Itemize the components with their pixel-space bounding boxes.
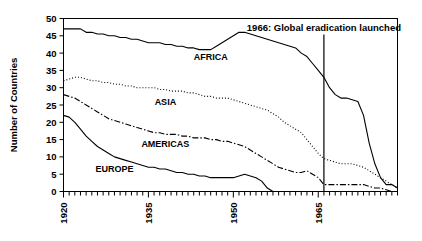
- x-axis-minor-ticks: [64, 192, 398, 198]
- y-tick-label: 5: [51, 169, 57, 180]
- series-line-europe: [64, 115, 398, 191]
- y-tick-label: 20: [46, 117, 57, 128]
- x-tick-label: 1935: [143, 202, 154, 224]
- series-line-americas: [64, 95, 398, 192]
- eradication-marker-label: 1966: Global eradication launched: [247, 22, 401, 33]
- y-tick-label: 45: [46, 30, 57, 41]
- series-inline-labels: AFRICAASIAAMERICASEUROPE: [95, 52, 228, 174]
- y-tick-label: 0: [51, 186, 56, 197]
- y-tick-label: 30: [46, 82, 57, 93]
- x-axis-tick-labels: 1920193519501965: [58, 202, 324, 224]
- y-axis-ticks: [60, 19, 64, 192]
- x-tick-label: 1965: [313, 202, 324, 224]
- smallpox-endemic-countries-chart: 05101520253035404550 1920193519501965 AF…: [0, 0, 422, 241]
- y-tick-label: 25: [46, 100, 57, 111]
- y-tick-label: 35: [46, 65, 57, 76]
- series-label-africa: AFRICA: [194, 52, 228, 62]
- y-tick-label: 50: [46, 13, 57, 24]
- series-label-europe: EUROPE: [95, 164, 133, 174]
- annotations-group: 1966: Global eradication launched: [247, 22, 401, 192]
- series-label-asia: ASIA: [155, 97, 177, 107]
- series-label-americas: AMERICAS: [141, 139, 189, 149]
- y-axis-title: Number of Countries: [8, 58, 19, 152]
- y-axis-tick-labels: 05101520253035404550: [46, 13, 57, 197]
- x-tick-label: 1920: [58, 203, 69, 224]
- chart-container: 05101520253035404550 1920193519501965 AF…: [0, 0, 422, 241]
- x-tick-label: 1950: [228, 203, 239, 224]
- y-tick-label: 40: [46, 48, 57, 59]
- y-tick-label: 10: [46, 151, 57, 162]
- y-tick-label: 15: [46, 134, 57, 145]
